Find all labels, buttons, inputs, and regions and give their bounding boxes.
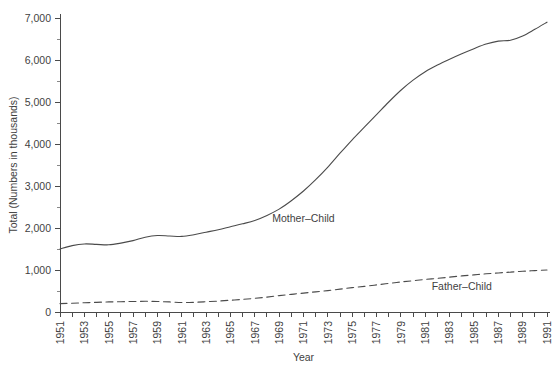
y-axis-tick-label: 6,000 (25, 54, 51, 66)
x-axis-tick-label: 1983 (443, 321, 455, 345)
chart-figure: 01,0002,0003,0004,0005,0006,0007,000 195… (0, 0, 555, 374)
x-axis-tick-label: 1959 (151, 321, 163, 345)
y-axis-tick-label: 2,000 (25, 222, 51, 234)
x-axis-tick-label: 1951 (54, 321, 66, 345)
series-labels-group: Mother–ChildFather–Child (272, 212, 492, 292)
x-axis-tick-label: 1987 (492, 321, 504, 345)
x-axis-tick-label: 1981 (419, 321, 431, 345)
y-axis-tick-label: 0 (45, 306, 51, 318)
y-axis: 01,0002,0003,0004,0005,0006,0007,000 (25, 12, 60, 318)
line-chart: 01,0002,0003,0004,0005,0006,0007,000 195… (0, 0, 555, 374)
x-axis-tick-label: 1969 (273, 321, 285, 345)
x-axis-tick-label: 1961 (176, 321, 188, 345)
x-axis-tick-label: 1957 (127, 321, 139, 345)
series-label-father-child: Father–Child (432, 280, 492, 292)
x-axis-tick-label: 1965 (224, 321, 236, 345)
x-axis-tick-label: 1979 (395, 321, 407, 345)
x-axis-tick-label: 1971 (297, 321, 309, 345)
x-axis-tick-label: 1989 (516, 321, 528, 345)
x-axis-tick-label: 1967 (249, 321, 261, 345)
x-axis-tick-label: 1977 (370, 321, 382, 345)
x-axis-tick-label: 1963 (200, 321, 212, 345)
x-axis: 1951195319551957195919611963196519671969… (54, 312, 553, 344)
x-axis-tick-label: 1991 (541, 321, 553, 345)
x-axis-title: Year (293, 351, 315, 363)
data-series-group (60, 22, 547, 303)
x-axis-tick-label: 1985 (468, 321, 480, 345)
y-axis-tick-label: 1,000 (25, 264, 51, 276)
y-axis-title: Total (Numbers in thousands) (7, 96, 19, 233)
x-axis-tick-label: 1955 (103, 321, 115, 345)
y-axis-tick-label: 3,000 (25, 180, 51, 192)
y-axis-tick-label: 5,000 (25, 96, 51, 108)
x-axis-tick-label: 1975 (346, 321, 358, 345)
y-axis-tick-label: 7,000 (25, 12, 51, 24)
x-axis-tick-label: 1973 (322, 321, 334, 345)
series-label-mother-child: Mother–Child (272, 212, 335, 224)
x-axis-tick-label: 1953 (78, 321, 90, 345)
y-axis-tick-label: 4,000 (25, 138, 51, 150)
